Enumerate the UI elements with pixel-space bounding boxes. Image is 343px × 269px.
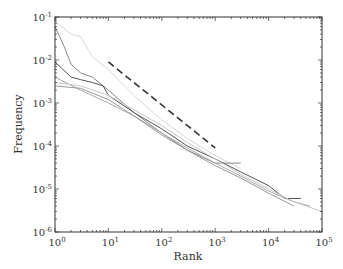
- tick-label: 10-5: [32, 183, 52, 195]
- series-5-line: [55, 86, 294, 206]
- y-tick-labels: 10-610-510-410-310-210-1: [32, 11, 52, 238]
- tick-label: 10-3: [32, 97, 52, 109]
- x-tick-labels: 100101102103104105: [48, 236, 332, 248]
- tick-label: 101: [102, 236, 119, 248]
- tick-label: 104: [262, 236, 280, 248]
- y-axis-label: Frequency: [12, 93, 25, 153]
- x-axis-label: Rank: [174, 250, 203, 263]
- series-3-line: [55, 62, 301, 199]
- rank-frequency-chart: 100101102103104105 10-610-510-410-310-21…: [0, 0, 343, 269]
- tick-label: 10-2: [32, 54, 52, 66]
- tick-label: 10-4: [32, 140, 52, 152]
- tick-label: 105: [315, 236, 332, 248]
- data-series: [55, 21, 322, 211]
- series-4-line: [55, 77, 310, 206]
- tick-label: 100: [48, 236, 65, 248]
- series-2-line: [55, 27, 241, 164]
- tick-label: 103: [209, 236, 226, 248]
- tick-label: 10-1: [32, 11, 52, 23]
- tick-label: 102: [155, 236, 172, 248]
